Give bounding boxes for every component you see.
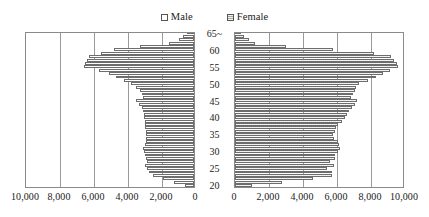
- age-axis: 20253035404550556065~: [195, 32, 234, 188]
- legend-label-male: Male: [171, 12, 193, 23]
- bar: [235, 42, 255, 45]
- bar: [143, 147, 194, 150]
- bar: [163, 177, 194, 180]
- bar: [235, 59, 394, 62]
- age-axis-tick-label: 25: [195, 164, 234, 174]
- hatched-square-swatch-icon: [227, 14, 234, 21]
- legend-entry-female: Female: [227, 12, 269, 23]
- value-axis-tick-label: 10,000: [11, 191, 39, 203]
- bar: [144, 116, 194, 119]
- age-axis-tick-label: 45: [195, 97, 234, 107]
- bar: [235, 69, 390, 72]
- bar: [144, 150, 194, 153]
- value-axis-tick-label: 6,000: [82, 191, 105, 203]
- bar: [183, 35, 194, 38]
- bar: [235, 167, 327, 170]
- bar: [235, 126, 336, 129]
- bar: [235, 177, 313, 180]
- bar: [153, 174, 194, 177]
- legend-label-female: Female: [237, 12, 269, 23]
- bar: [235, 103, 355, 106]
- bar: [235, 157, 335, 160]
- bar: [235, 48, 333, 51]
- bar: [179, 38, 194, 41]
- age-axis-tick-label: 40: [195, 113, 234, 123]
- bar: [235, 89, 355, 92]
- bar: [235, 99, 357, 102]
- bar: [142, 106, 194, 109]
- bar: [235, 38, 249, 41]
- bar: [146, 133, 194, 136]
- bar: [235, 120, 342, 123]
- bar: [87, 59, 194, 62]
- bar: [145, 126, 194, 129]
- bar: [144, 113, 194, 116]
- bar: [235, 147, 340, 150]
- bar: [235, 137, 334, 140]
- value-axis-tick-label: 8,000: [48, 191, 71, 203]
- empty-square-swatch-icon: [161, 14, 168, 21]
- bar: [140, 89, 194, 92]
- bar: [185, 184, 194, 187]
- bar: [235, 45, 286, 48]
- age-axis-tick-label: 35: [195, 130, 234, 140]
- bar: [147, 160, 194, 163]
- chart-legend: Male Female: [0, 9, 429, 25]
- male-bar-group: [26, 33, 194, 187]
- bar: [145, 154, 194, 157]
- bar: [145, 120, 194, 123]
- age-axis-tick-label: 50: [195, 80, 234, 90]
- female-bar-group: [235, 33, 403, 187]
- bar: [131, 82, 194, 85]
- legend-entry-male: Male: [161, 12, 193, 23]
- value-axis: 10,0008,0006,0004,0002,000002,0004,0006,…: [0, 191, 429, 207]
- bar: [235, 113, 347, 116]
- bar: [143, 110, 194, 113]
- bar: [235, 86, 356, 89]
- bar: [139, 103, 194, 106]
- bar: [142, 93, 194, 96]
- bar: [235, 160, 330, 163]
- bar: [235, 32, 241, 34]
- bar: [169, 42, 194, 45]
- bar: [136, 86, 194, 89]
- bar: [145, 143, 194, 146]
- bar: [109, 72, 194, 75]
- bar: [235, 106, 352, 109]
- value-axis-tick-label: 4,000: [116, 191, 139, 203]
- bar: [235, 140, 338, 143]
- bar: [235, 93, 353, 96]
- bar: [146, 137, 194, 140]
- value-axis-tick-label: 2,000: [257, 191, 280, 203]
- bar: [140, 45, 194, 48]
- bar: [101, 52, 194, 55]
- value-axis-tick-label: 0: [231, 191, 236, 203]
- bar: [146, 130, 194, 133]
- age-axis-tick-label: 20: [195, 181, 234, 191]
- bar: [235, 35, 244, 38]
- value-axis-tick-label: 6,000: [325, 191, 348, 203]
- value-axis-tick-label: 10,000: [390, 191, 418, 203]
- age-axis-tick-label: 55: [195, 63, 234, 73]
- male-plot-panel: [25, 32, 195, 188]
- bar: [235, 82, 359, 85]
- bar: [84, 65, 194, 68]
- bar: [145, 164, 194, 167]
- bar: [149, 171, 194, 174]
- age-axis-tick-label: 30: [195, 147, 234, 157]
- age-axis-tick-label: 65~: [195, 29, 234, 39]
- female-plot-panel: [234, 32, 404, 188]
- bar: [235, 96, 351, 99]
- bar: [147, 167, 194, 170]
- bar: [235, 123, 338, 126]
- bar: [235, 79, 368, 82]
- bar: [235, 130, 335, 133]
- bar: [235, 62, 397, 65]
- bar: [174, 181, 194, 184]
- bar: [235, 181, 282, 184]
- bar: [235, 150, 338, 153]
- bar: [116, 76, 194, 79]
- bar: [124, 79, 194, 82]
- bar: [235, 55, 391, 58]
- bar: [89, 55, 194, 58]
